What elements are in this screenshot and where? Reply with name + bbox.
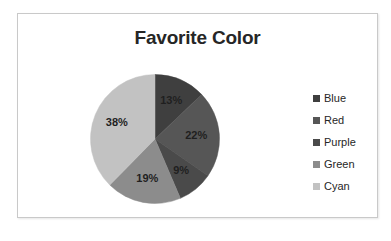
pie-data-label: 22% bbox=[185, 129, 207, 141]
legend-item-blue[interactable]: Blue bbox=[313, 87, 391, 109]
chart-legend: BlueRedPurpleGreenCyan bbox=[313, 87, 391, 197]
pie-chart-svg: 13%22%9%19%38% bbox=[90, 74, 220, 204]
pie-data-label: 19% bbox=[136, 172, 158, 184]
legend-item-cyan[interactable]: Cyan bbox=[313, 175, 391, 197]
legend-item-label: Green bbox=[324, 158, 355, 171]
pie-data-label: 9% bbox=[173, 164, 189, 176]
legend-swatch-icon bbox=[313, 161, 320, 168]
legend-item-label: Cyan bbox=[324, 180, 350, 193]
pie-data-label: 13% bbox=[160, 94, 182, 106]
legend-item-green[interactable]: Green bbox=[313, 153, 391, 175]
legend-swatch-icon bbox=[313, 139, 320, 146]
legend-swatch-icon bbox=[313, 183, 320, 190]
pie-chart-plot-area: 13%22%9%19%38% bbox=[90, 74, 220, 204]
legend-item-red[interactable]: Red bbox=[313, 109, 391, 131]
chart-card: Favorite Color 13%22%9%19%38% BlueRedPur… bbox=[17, 13, 378, 218]
legend-swatch-icon bbox=[313, 117, 320, 124]
legend-item-label: Red bbox=[324, 114, 344, 127]
legend-item-purple[interactable]: Purple bbox=[313, 131, 391, 153]
pie-data-label: 38% bbox=[106, 116, 128, 128]
chart-title: Favorite Color bbox=[18, 27, 377, 49]
legend-item-label: Purple bbox=[324, 136, 356, 149]
legend-swatch-icon bbox=[313, 95, 320, 102]
legend-item-label: Blue bbox=[324, 92, 346, 105]
